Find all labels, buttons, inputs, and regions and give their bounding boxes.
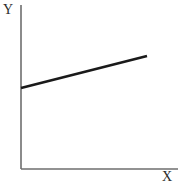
chart-canvas xyxy=(0,0,181,192)
x-axis-label: X xyxy=(162,170,172,184)
chart-figure: Y X xyxy=(0,0,181,192)
plot-background xyxy=(0,0,181,192)
y-axis-label: Y xyxy=(3,3,13,17)
